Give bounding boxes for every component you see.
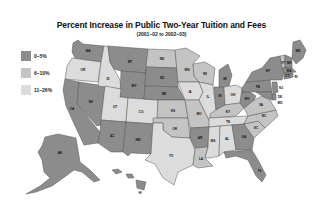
label-ks: KS <box>171 109 175 113</box>
label-wi: WI <box>203 72 207 76</box>
label-or: OR <box>81 68 86 72</box>
label-ar: AR <box>198 136 203 140</box>
label-sc: SC <box>254 126 259 130</box>
label-nc: NC <box>262 114 267 118</box>
state-ri[interactable] <box>290 73 293 78</box>
label-va: VA <box>259 103 264 107</box>
state-nj[interactable] <box>272 82 278 94</box>
state-mi[interactable] <box>219 64 232 87</box>
label-ma: MA <box>287 69 293 73</box>
label-md: MD <box>278 101 284 105</box>
label-fl: FL <box>258 169 262 173</box>
label-tn: TN <box>226 120 231 124</box>
label-nd: ND <box>160 57 165 61</box>
label-hi: HI <box>138 191 141 195</box>
label-nj: NJ <box>279 86 283 90</box>
label-wa: WA <box>85 49 91 53</box>
state-hi[interactable] <box>112 169 146 190</box>
label-nh: NH <box>287 61 292 65</box>
label-ri: RI <box>294 75 297 79</box>
label-ga: GA <box>242 135 247 139</box>
label-mn: MN <box>185 68 191 72</box>
label-co: CO <box>139 110 144 114</box>
label-sd: SD <box>160 76 165 80</box>
label-ca: CA <box>70 107 75 111</box>
label-vt: VT <box>281 61 285 65</box>
label-pa: PA <box>256 85 261 89</box>
label-ne: NE <box>162 92 166 96</box>
state-de[interactable] <box>272 94 276 100</box>
label-mi: MI <box>223 77 227 81</box>
label-ct: CT <box>285 74 289 78</box>
label-wy: WY <box>131 84 137 88</box>
label-wv: WV <box>244 97 250 101</box>
state-fl[interactable] <box>224 150 266 182</box>
label-la: LA <box>199 157 204 161</box>
us-map: WA OR CA NV ID MT WY UT AZ CO NM ND SD N… <box>0 0 323 210</box>
label-az: AZ <box>110 134 114 138</box>
label-oh: OH <box>231 93 236 97</box>
label-ok: OK <box>173 127 178 131</box>
label-ms: MS <box>211 139 216 143</box>
label-ut: UT <box>113 105 117 109</box>
label-mo: MO <box>196 112 202 116</box>
label-ak: AK <box>58 151 63 155</box>
label-me: ME <box>296 49 301 53</box>
label-il: IL <box>207 95 210 99</box>
label-al: AL <box>225 137 229 141</box>
label-nm: NM <box>136 138 141 142</box>
label-de: DE <box>278 95 282 99</box>
label-mt: MT <box>128 60 133 64</box>
